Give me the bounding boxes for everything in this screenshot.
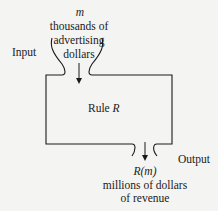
rule-label: Rule R bbox=[88, 102, 120, 115]
output-label: Output bbox=[178, 153, 210, 166]
output-variable: R(m) bbox=[125, 165, 165, 178]
rule-label-text: Rule bbox=[88, 102, 110, 114]
output-description-line-1: millions of dollars bbox=[100, 179, 190, 192]
output-arrow-icon bbox=[142, 155, 148, 161]
input-arrow-icon bbox=[76, 78, 82, 84]
input-label: Input bbox=[12, 46, 36, 59]
output-description-line-2: of revenue bbox=[100, 192, 190, 205]
input-description-line-2: advertising bbox=[44, 34, 114, 47]
rule-name: R bbox=[113, 102, 120, 114]
output-flare-left bbox=[132, 144, 135, 156]
output-flare-right bbox=[154, 144, 157, 156]
input-variable: m bbox=[60, 6, 100, 19]
input-description-line-1: thousands of bbox=[44, 20, 114, 33]
input-description-line-3: dollars bbox=[44, 48, 114, 61]
